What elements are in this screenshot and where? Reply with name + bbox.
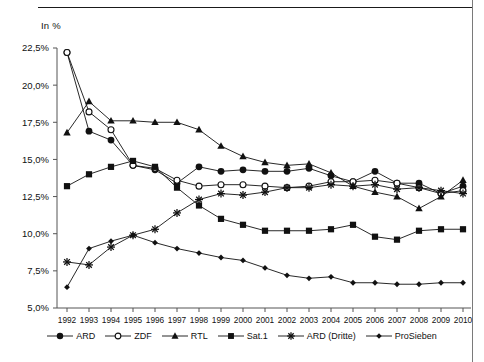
data-point-filled-triangle <box>85 98 92 105</box>
data-point-filled-square <box>372 234 378 240</box>
legend-marker-open-circle-icon <box>105 330 131 342</box>
data-point-filled-square <box>350 222 356 228</box>
legend-item-prosieben[interactable]: ProSieben <box>366 330 437 342</box>
data-point-small-diamond <box>394 281 400 287</box>
y-axis-tick-label: 12,5% <box>22 191 49 202</box>
data-point-filled-square <box>438 226 444 232</box>
data-point-filled-square <box>64 183 70 189</box>
data-point-filled-square <box>86 171 92 177</box>
line-chart-plot: 5,0%7,5%10,0%12,5%15,0%17,5%20,0%22,5% 1… <box>0 0 484 362</box>
data-point-filled-triangle <box>63 129 70 136</box>
data-point-filled-circle <box>284 168 291 175</box>
y-axis-tick-label: 20,0% <box>22 80 49 91</box>
data-point-small-diamond <box>152 240 158 246</box>
x-axis-tick-label: 2000 <box>234 315 253 325</box>
data-point-small-diamond <box>438 280 444 286</box>
x-axis-tick-label: 1999 <box>212 315 231 325</box>
data-point-filled-square <box>460 226 466 232</box>
legend-item-ard-dritte[interactable]: ARD (Dritte) <box>278 330 356 342</box>
x-axis-tick-label: 2009 <box>432 315 451 325</box>
data-point-small-diamond <box>64 284 70 290</box>
series-ard <box>64 49 467 197</box>
x-axis-tick-label: 2002 <box>278 315 297 325</box>
data-point-small-diamond <box>372 280 378 286</box>
legend-marker-small-diamond-icon <box>366 330 392 342</box>
legend-item-sat-1[interactable]: Sat.1 <box>218 330 268 342</box>
legend-label: RTL <box>191 331 208 341</box>
legend-label: ARD <box>76 331 95 341</box>
x-axis-tick-label: 1992 <box>58 315 77 325</box>
data-point-filled-square <box>228 333 234 339</box>
x-axis-tick-label: 2006 <box>366 315 385 325</box>
data-point-open-circle <box>115 333 121 339</box>
data-point-filled-square <box>174 185 180 191</box>
data-point-open-circle <box>240 182 246 188</box>
data-point-small-diamond <box>108 238 114 244</box>
x-axis-tick-label: 2007 <box>388 315 407 325</box>
y-axis-tick-label: 7,5% <box>27 265 49 276</box>
data-point-small-diamond <box>306 275 312 281</box>
y-axis-tick-label: 22,5% <box>22 42 49 53</box>
legend-marker-filled-square-icon <box>218 330 244 342</box>
data-point-filled-circle <box>57 333 63 339</box>
data-point-open-circle <box>108 127 114 133</box>
legend-label: ARD (Dritte) <box>307 331 356 341</box>
x-axis-tick-label: 1993 <box>80 315 99 325</box>
legend-label: ZDF <box>134 331 152 341</box>
data-point-star-x <box>459 190 467 198</box>
legend-marker-filled-circle-icon <box>47 330 73 342</box>
data-point-filled-square <box>306 228 312 234</box>
data-point-small-diamond <box>218 255 224 261</box>
data-point-star-x <box>287 332 295 340</box>
data-point-star-x <box>437 187 445 195</box>
data-point-small-diamond <box>460 280 466 286</box>
data-point-star-x <box>107 243 115 251</box>
data-point-star-x <box>173 209 181 217</box>
legend-item-rtl[interactable]: RTL <box>162 330 208 342</box>
data-point-filled-square <box>416 228 422 234</box>
y-axis-tick-label: 10,0% <box>22 228 49 239</box>
y-axis-tick-label: 17,5% <box>22 117 49 128</box>
series-polyline <box>67 185 463 265</box>
data-point-star-x <box>261 188 269 196</box>
legend-item-zdf[interactable]: ZDF <box>105 330 152 342</box>
data-point-star-x <box>85 261 93 269</box>
data-point-open-circle <box>64 49 70 55</box>
series-layer <box>63 49 467 290</box>
data-point-filled-circle <box>196 163 203 170</box>
data-point-filled-triangle <box>173 118 180 125</box>
data-point-small-diamond <box>284 272 290 278</box>
data-point-star-x <box>195 196 203 204</box>
data-point-filled-triangle <box>107 117 114 124</box>
data-point-small-diamond <box>196 250 202 256</box>
data-point-filled-triangle <box>305 160 312 167</box>
data-point-filled-circle <box>372 168 379 175</box>
data-point-filled-square <box>240 222 246 228</box>
data-point-filled-triangle <box>327 169 334 176</box>
x-axis-tick-label: 2001 <box>256 315 275 325</box>
data-point-star-x <box>349 182 357 190</box>
x-axis-tick-label: 1998 <box>190 315 209 325</box>
x-axis-tick-label: 1996 <box>146 315 165 325</box>
data-point-small-diamond <box>350 280 356 286</box>
x-axis-tick-label: 1997 <box>168 315 187 325</box>
data-point-small-diamond <box>86 246 92 252</box>
data-point-filled-triangle <box>415 205 422 212</box>
series-prosieben <box>64 232 466 290</box>
data-point-filled-circle <box>108 137 115 144</box>
data-point-star-x <box>239 191 247 199</box>
legend-item-ard[interactable]: ARD <box>47 330 95 342</box>
data-point-star-x <box>327 181 335 189</box>
series-polyline <box>67 235 463 287</box>
x-axis-tick-label: 1994 <box>102 315 121 325</box>
y-axis-tick-label: 5,0% <box>27 302 49 313</box>
data-point-filled-circle <box>262 168 269 175</box>
data-point-filled-square <box>130 158 136 164</box>
data-point-small-diamond <box>262 265 268 271</box>
y-axis-tick-label: 15,0% <box>22 154 49 165</box>
data-point-filled-square <box>394 237 400 243</box>
y-axis: 5,0%7,5%10,0%12,5%15,0%17,5%20,0%22,5% <box>22 42 57 313</box>
data-point-filled-square <box>284 228 290 234</box>
x-axis-tick-label: 2010 <box>454 315 473 325</box>
data-point-filled-square <box>108 164 114 170</box>
